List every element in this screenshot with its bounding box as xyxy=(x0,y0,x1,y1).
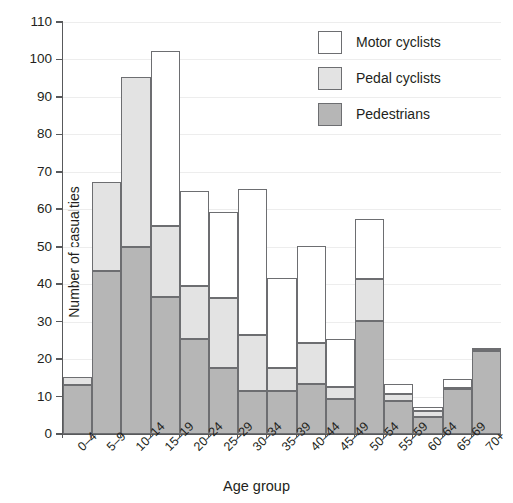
casualties-by-age-group-chart: Number of casualties 0102030405060708090… xyxy=(0,0,513,503)
segment-pedal-cyclists xyxy=(180,286,209,339)
y-tick-label: 40 xyxy=(37,277,52,291)
y-tick-mark xyxy=(56,321,63,323)
segment-pedal-cyclists xyxy=(238,335,267,391)
bar-0_4[interactable] xyxy=(63,22,92,434)
segment-pedestrians xyxy=(151,297,180,434)
segment-motor-cyclists xyxy=(238,189,267,335)
x-tick-mark xyxy=(91,434,92,438)
x-tick-mark xyxy=(266,434,267,438)
segment-pedal-cyclists xyxy=(92,182,121,272)
y-tick-mark xyxy=(56,96,63,98)
bar-35_39[interactable] xyxy=(267,22,296,434)
y-tick-mark xyxy=(56,246,63,248)
segment-pedal-cyclists xyxy=(267,368,296,392)
segment-motor-cyclists xyxy=(151,51,180,226)
x-tick-mark xyxy=(325,434,326,438)
bar-20_24[interactable] xyxy=(180,22,209,434)
y-tick-mark xyxy=(56,59,63,61)
segment-pedestrians xyxy=(92,271,121,434)
segment-pedestrians xyxy=(63,385,92,434)
bar-5_9[interactable] xyxy=(92,22,121,434)
segment-motor-cyclists xyxy=(355,219,384,280)
x-tick-mark xyxy=(471,434,472,438)
y-tick-label: 10 xyxy=(37,390,52,404)
segment-motor-cyclists xyxy=(297,246,326,343)
bar-30_34[interactable] xyxy=(238,22,267,434)
y-tick-label: 90 xyxy=(37,90,52,104)
y-tick-mark xyxy=(56,21,63,23)
y-tick-label: 20 xyxy=(37,352,52,366)
x-tick-mark xyxy=(120,434,121,438)
legend-swatch-ped xyxy=(318,103,342,126)
segment-pedal-cyclists xyxy=(151,226,180,296)
legend-swatch-pedal xyxy=(318,67,342,90)
segment-motor-cyclists xyxy=(267,278,296,368)
chart-legend: Motor cyclistsPedal cyclistsPedestrians xyxy=(318,24,498,132)
legend-item-ped[interactable]: Pedestrians xyxy=(318,96,498,132)
segment-pedal-cyclists xyxy=(297,343,326,384)
y-tick-label: 0 xyxy=(44,427,52,441)
x-tick-mark xyxy=(412,434,413,438)
x-tick-mark xyxy=(179,434,180,438)
y-tick-label: 110 xyxy=(30,15,52,29)
segment-pedestrians xyxy=(355,321,384,434)
x-tick-mark xyxy=(208,434,209,438)
legend-item-pedal[interactable]: Pedal cyclists xyxy=(318,60,498,96)
x-tick-mark xyxy=(354,434,355,438)
y-tick-label: 30 xyxy=(37,315,52,329)
legend-item-motor[interactable]: Motor cyclists xyxy=(318,24,498,60)
scan-top-crop-artifact xyxy=(0,0,513,9)
segment-pedal-cyclists xyxy=(209,298,238,367)
y-tick-mark xyxy=(56,208,63,210)
x-tick-mark xyxy=(237,434,238,438)
segment-motor-cyclists xyxy=(180,191,209,287)
legend-label: Pedal cyclists xyxy=(356,70,441,86)
y-tick-mark xyxy=(56,283,63,285)
x-tick-mark xyxy=(296,434,297,438)
x-axis-title: Age group xyxy=(0,478,513,494)
segment-motor-cyclists xyxy=(384,384,413,394)
bar-10_14[interactable] xyxy=(121,22,150,434)
segment-pedal-cyclists xyxy=(63,377,92,385)
y-tick-label: 50 xyxy=(37,240,52,254)
segment-motor-cyclists xyxy=(326,339,355,387)
y-tick-mark xyxy=(56,358,63,360)
x-tick-mark xyxy=(442,434,443,438)
x-tick-mark xyxy=(383,434,384,438)
x-tick-mark xyxy=(150,434,151,438)
legend-label: Motor cyclists xyxy=(356,34,441,50)
segment-pedestrians xyxy=(121,247,150,434)
x-tick-mark xyxy=(62,434,63,438)
bar-15_19[interactable] xyxy=(151,22,180,434)
y-tick-label: 70 xyxy=(37,165,52,179)
segment-pedestrians xyxy=(180,339,209,434)
segment-pedal-cyclists xyxy=(326,387,355,399)
y-tick-label: 100 xyxy=(29,52,52,66)
segment-pedal-cyclists xyxy=(355,279,384,320)
legend-label: Pedestrians xyxy=(356,106,430,122)
y-tick-label: 60 xyxy=(37,202,52,216)
segment-motor-cyclists xyxy=(209,212,238,299)
y-tick-mark xyxy=(56,396,63,398)
legend-swatch-motor xyxy=(318,31,342,54)
y-tick-mark xyxy=(56,134,63,136)
y-tick-label: 80 xyxy=(37,127,52,141)
segment-pedal-cyclists xyxy=(384,394,413,401)
segment-pedal-cyclists xyxy=(121,77,150,247)
bar-25_29[interactable] xyxy=(209,22,238,434)
y-tick-mark xyxy=(56,171,63,173)
